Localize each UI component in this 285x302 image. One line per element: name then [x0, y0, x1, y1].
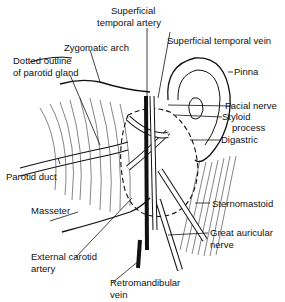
pinna-shape: [168, 58, 230, 162]
external-carotid-artery-shape: [146, 96, 147, 250]
masseter-border: [62, 198, 150, 232]
label-styloid-process-2: process: [232, 122, 265, 133]
label-superficial-temporal-vein: Superficial temporal vein: [167, 35, 271, 46]
label-sternomastoid: Sternomastoid: [212, 198, 273, 209]
label-facial-nerve: Facial nerve: [225, 100, 277, 111]
label-styloid-process-1: Styloid: [222, 111, 251, 122]
label-digastric: Digastric: [221, 134, 258, 145]
zygomatic-arch-shape: [60, 80, 150, 92]
retromandibular-vein-shape: [138, 240, 140, 268]
label-pinna: Pinna: [234, 66, 258, 77]
label-dotted-outline-2: of parotid gland: [13, 67, 79, 78]
label-zygomatic-arch: Zygomatic arch: [64, 42, 129, 53]
parotid-duct-shape: [20, 142, 128, 168]
label-parotid-duct: Parotid duct: [6, 171, 57, 182]
anatomy-diagram: Superficial temporal artery Superficial …: [0, 0, 285, 302]
label-retromandibular-vein-2: vein: [110, 289, 127, 300]
label-superficial-temporal-artery-1: Superficial: [111, 5, 155, 16]
label-retromandibular-vein-1: Retromandibular: [110, 277, 180, 288]
label-superficial-temporal-artery-2: temporal artery: [97, 17, 161, 28]
label-external-carotid-artery-1: External carotid: [31, 251, 97, 262]
label-great-auricular-nerve-1: Great auricular: [210, 227, 273, 238]
label-great-auricular-nerve-2: nerve: [210, 239, 234, 250]
label-dotted-outline-1: Dotted outline: [13, 55, 72, 66]
label-external-carotid-artery-2: artery: [31, 263, 55, 274]
label-masseter: Masseter: [31, 205, 70, 216]
